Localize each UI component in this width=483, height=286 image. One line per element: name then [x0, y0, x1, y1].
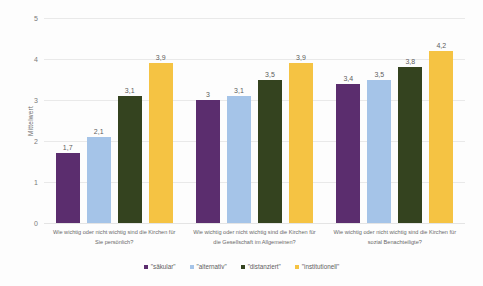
- bar[interactable]: [87, 137, 111, 223]
- bar-column[interactable]: 3,8: [398, 18, 422, 223]
- bar[interactable]: [118, 96, 142, 223]
- y-axis-tick-label: 4: [34, 56, 38, 63]
- bar-column[interactable]: 3: [196, 18, 220, 223]
- bar-value-label: 2,1: [94, 128, 104, 135]
- legend-item[interactable]: "institutionell": [295, 263, 339, 270]
- legend-item[interactable]: "distanziert": [241, 263, 281, 270]
- bar[interactable]: [227, 96, 251, 223]
- bar-column[interactable]: 3,5: [258, 18, 282, 223]
- bar-group: 33,13,53,9: [184, 18, 324, 223]
- bar-column[interactable]: 4,2: [429, 18, 453, 223]
- bar[interactable]: [336, 84, 360, 223]
- bar-value-label: 3,1: [125, 87, 135, 94]
- bar-value-label: 4,2: [436, 42, 446, 49]
- y-axis-tick-label: 5: [34, 15, 38, 22]
- legend-swatch-icon: [190, 265, 194, 269]
- x-axis-category-label: Wie wichtig oder nicht wichtig sind die …: [44, 228, 184, 248]
- legend-swatch-icon: [144, 265, 148, 269]
- bar[interactable]: [149, 63, 173, 223]
- bar-value-label: 3,5: [265, 71, 275, 78]
- x-axis-category-labels: Wie wichtig oder nicht wichtig sind die …: [44, 228, 465, 248]
- bar[interactable]: [196, 100, 220, 223]
- bar-value-label: 3,4: [343, 75, 353, 82]
- bar-value-label: 3: [206, 91, 210, 98]
- legend-swatch-icon: [241, 265, 245, 269]
- y-axis-title: Mittelwert: [27, 76, 34, 166]
- bar[interactable]: [289, 63, 313, 223]
- y-axis-tick-label: 2: [34, 138, 38, 145]
- bar-group: 3,43,53,84,2: [325, 18, 465, 223]
- legend-label: "alternativ": [197, 263, 227, 270]
- bar[interactable]: [398, 67, 422, 223]
- bar[interactable]: [258, 80, 282, 224]
- legend-label: "institutionell": [302, 263, 339, 270]
- x-axis-category-label: Wie wichtig oder nicht wichtig sind die …: [325, 228, 465, 248]
- x-axis-category-label: Wie wichtig oder nicht wichtig sind die …: [184, 228, 324, 248]
- bar-column[interactable]: 3,5: [367, 18, 391, 223]
- chart-legend: "säkular""alternativ""distanziert""insti…: [0, 263, 483, 270]
- bar-column[interactable]: 3,1: [227, 18, 251, 223]
- legend-item[interactable]: "säkular": [144, 263, 176, 270]
- bar[interactable]: [56, 153, 80, 223]
- plot-area: Mittelwert 012345 1,72,13,13,933,13,53,9…: [44, 18, 465, 223]
- bar-value-label: 1,7: [63, 144, 73, 151]
- bar-column[interactable]: 1,7: [56, 18, 80, 223]
- bar-column[interactable]: 3,4: [336, 18, 360, 223]
- y-axis-tick-label: 0: [34, 220, 38, 227]
- bar-chart: Mittelwert 012345 1,72,13,13,933,13,53,9…: [0, 0, 483, 286]
- bar-value-label: 3,9: [156, 54, 166, 61]
- legend-label: "distanziert": [248, 263, 281, 270]
- y-axis-tick-label: 1: [34, 179, 38, 186]
- legend-swatch-icon: [295, 265, 299, 269]
- bar[interactable]: [429, 51, 453, 223]
- y-axis-tick-label: 3: [34, 97, 38, 104]
- legend-item[interactable]: "alternativ": [190, 263, 227, 270]
- bar-value-label: 3,5: [374, 71, 384, 78]
- bar-column[interactable]: 3,9: [149, 18, 173, 223]
- bar-groups: 1,72,13,13,933,13,53,93,43,53,84,2: [44, 18, 465, 223]
- legend-label: "säkular": [151, 263, 176, 270]
- bar[interactable]: [367, 80, 391, 224]
- bar-column[interactable]: 3,9: [289, 18, 313, 223]
- bar-column[interactable]: 3,1: [118, 18, 142, 223]
- gridline: [44, 223, 465, 224]
- bar-group: 1,72,13,13,9: [44, 18, 184, 223]
- bar-value-label: 3,8: [405, 58, 415, 65]
- bar-value-label: 3,9: [296, 54, 306, 61]
- bar-value-label: 3,1: [234, 87, 244, 94]
- bar-column[interactable]: 2,1: [87, 18, 111, 223]
